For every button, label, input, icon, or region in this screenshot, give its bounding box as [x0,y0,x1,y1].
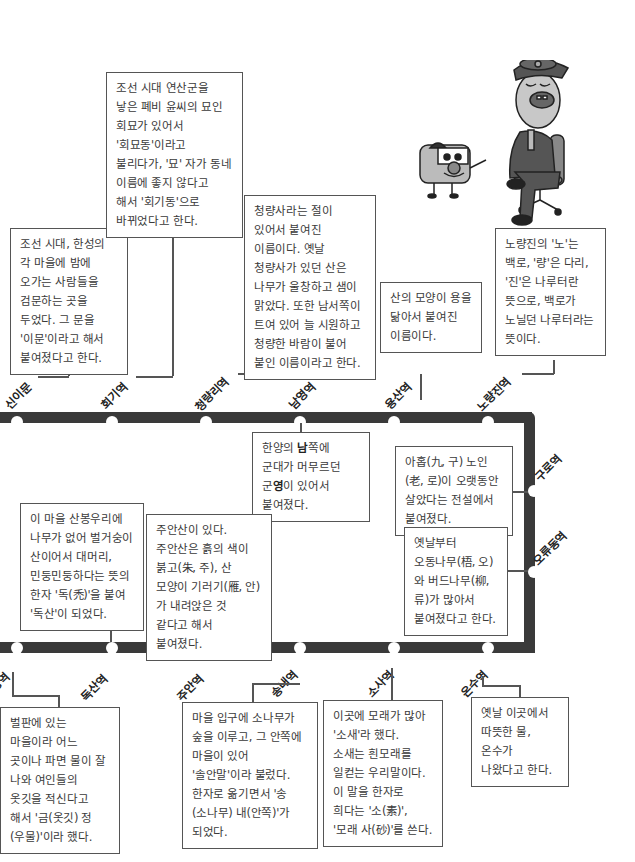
station-marker-doksan[interactable] [106,642,118,654]
desc-box-geumjeong: 벌판에 있는 마을이라 어느 곳이나 파면 물이 잘 나와 여인들의 옷깃을 적… [0,707,120,854]
station-label-namyeong: 남영역 [285,378,319,412]
station-label-yongsan: 용산역 [381,378,415,412]
station-label-cheongnyangni: 청량리역 [191,373,232,414]
station-label-sinimun: 신이문 [1,378,35,412]
railway-line-top [0,412,532,423]
desc-box-namyeong: 한양의 남쪽에 군대가 머무르던 군영이 있어서 붙여졌다. [252,432,370,522]
desc-box-doksan: 이 마을 산봉우리에 나무가 없어 벌거숭이 산이어서 대머리, 민둥민둥하다는… [20,503,144,631]
desc-box-sinimun: 조선 시대, 한성의 각 마을에 밤에 오가는 사람들을 검문하는 곳을 두었다… [10,228,128,375]
illustration-conductor-and-mascot [410,60,620,230]
station-marker-sinimun[interactable] [11,416,23,428]
connector [508,570,528,572]
station-marker-oryudong[interactable] [528,566,540,578]
desc-box-oryudong: 옛날부터 오동나무(梧, 오)와 버드나무(柳, 류)가 많아서 붙여졌다고 한… [404,527,508,636]
connector [252,683,254,703]
desc-box-guro: 아홉(九, 구) 노인(老, 로)이 오랫동안 살았다는 전설에서 붙여졌다. [395,446,513,536]
connector [553,360,555,374]
connector [519,685,521,697]
connector [58,695,60,707]
station-label-doksan: 독산역 [77,670,111,704]
station-label-noryangjin: 노량진역 [473,373,514,414]
desc-box-onsu: 옛날 이곳에서 따뜻한 물, 온수가 나왔다고 한다. [471,697,569,787]
station-marker-cheongnyangni[interactable] [200,416,212,428]
railway-line-left-corner [0,412,5,652]
station-label-onsu: 온수역 [457,666,491,700]
connector [482,685,520,687]
station-marker-geumjeong[interactable] [11,642,23,654]
connector [12,672,14,696]
station-marker-yongsan[interactable] [388,416,400,428]
desc-box-cheongnyangni: 청량사라는 절이 있어서 붙여진 이름이다. 옛날 청량사가 있던 산은 나무가… [244,195,376,380]
desc-box-songnae: 마을 입구에 소나무가 숲을 이루고, 그 안쪽에 마을이 있어 '솔안말'이라… [182,702,318,849]
station-marker-songnae[interactable] [294,642,306,654]
connector [12,695,60,697]
connector [522,373,554,375]
station-label-geumjeong: 금정역 [0,668,12,702]
mascot-icon [420,143,486,198]
station-label-hoegi: 회기역 [97,378,131,412]
station-label-juan: 주안역 [173,670,207,704]
connector [136,376,173,378]
desc-box-hoegi: 조선 시대 연산군을 낳은 폐비 윤씨의 묘인 회묘가 있어서 '회묘동'이라고… [106,72,243,238]
desc-box-noryangjin: 노량진의 '노'는 백로, '량'은 다리, '진'은 나루터란 뜻으로, 백로… [495,228,606,356]
station-label-guro: 구로역 [531,450,565,484]
connector [38,376,69,378]
connector [391,668,393,700]
station-marker-hoegi[interactable] [106,416,118,428]
station-marker-guro[interactable] [528,485,540,497]
station-marker-onsu[interactable] [482,642,494,654]
desc-box-yongsan: 산의 모양이 용을 닮아서 붙여진 이름이다. [380,282,482,353]
connector [252,683,300,685]
connector [512,491,528,493]
desc-box-juan: 주안산이 있다. 주안산은 흙의 색이 붉고(朱, 주), 산 모양이 기러기(… [146,514,272,661]
connector [420,374,422,400]
railway-line-right [524,412,535,652]
station-marker-sosa[interactable] [388,642,400,654]
station-marker-noryangjin[interactable] [482,416,494,428]
desc-box-sosa: 이곳에 모래가 많아 '소새'라 했다. 소새는 흰모래를 일컫는 우리말이다.… [323,700,443,847]
